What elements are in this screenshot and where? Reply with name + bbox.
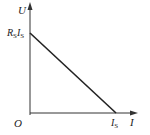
origin-label: O <box>14 118 22 129</box>
x-axis-arrow-icon <box>130 111 138 116</box>
characteristic-line <box>30 33 116 113</box>
diagram-canvas <box>0 0 150 135</box>
y-intercept-i-sub: S <box>20 32 24 40</box>
x-intercept-label: IS <box>111 118 118 130</box>
x-intercept-i-sub: S <box>114 122 118 130</box>
y-axis-label: U <box>18 5 26 16</box>
x-axis-label: I <box>130 117 134 128</box>
y-intercept-label: RSIS <box>7 28 24 40</box>
y-axis-arrow-icon <box>28 2 33 10</box>
